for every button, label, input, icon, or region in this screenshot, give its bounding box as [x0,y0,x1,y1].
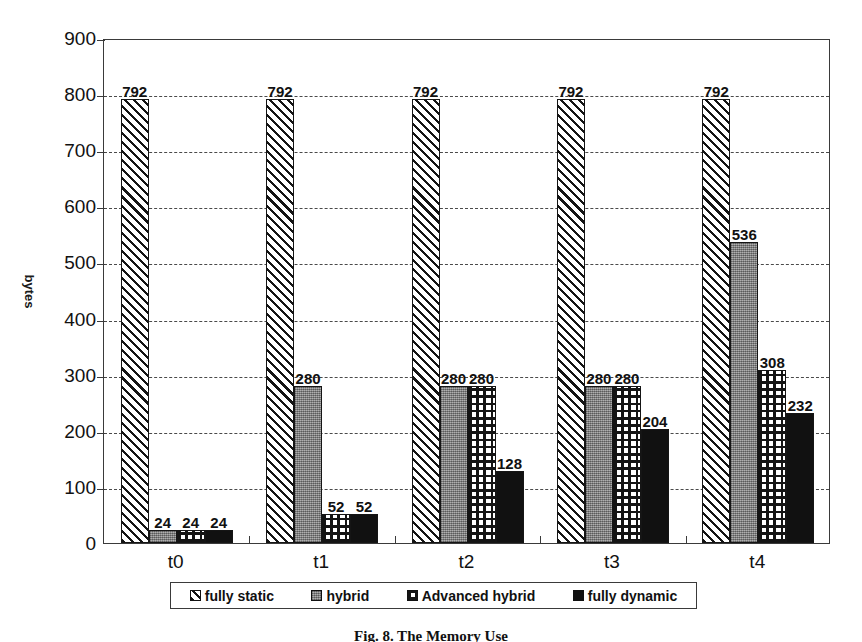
bar-t0-fully-static [121,99,149,543]
bar-value-label: 232 [776,398,824,413]
y-axis-tick-800: 800 [44,85,96,104]
bar-t3-fully-dynamic [641,429,669,543]
bar-t1-advanced-hybrid [322,514,350,543]
y-axis-tick-0: 0 [44,534,96,553]
bar-t3-hybrid [585,386,613,543]
y-axis-tick-400: 400 [44,310,96,329]
bar-t1-fully-static [266,99,294,543]
bar-t2-fully-dynamic [496,471,524,543]
bar-t0-hybrid [149,530,177,543]
bar-t0-fully-dynamic [205,530,233,543]
bar-t4-fully-dynamic [786,413,814,543]
bar-value-label: 128 [486,456,534,471]
bar-value-label: 52 [340,499,388,514]
x-axis-tick-mark [395,536,396,543]
legend-swatch-icon [573,590,584,601]
x-axis-tick-t3: t3 [539,551,684,573]
bar-value-label: 308 [748,355,796,370]
legend-item-advanced-hybrid: Advanced hybrid [407,588,536,604]
bar-value-label: 204 [631,414,679,429]
y-axis-tick-700: 700 [44,141,96,160]
bar-t4-advanced-hybrid [758,370,786,543]
bar-value-label: 792 [402,84,450,99]
y-axis-tick-mark [97,152,105,153]
plot-area: 7922424247922805252792280280128792280280… [103,39,830,544]
bar-value-label: 792 [692,84,740,99]
chart-legend: fully statichybridAdvanced hybridfully d… [170,582,697,609]
figure-caption: Fig. 8. The Memory Use [0,628,862,642]
y-axis-tick-300: 300 [44,366,96,385]
legend-label: Advanced hybrid [422,588,536,604]
legend-item-fully-static: fully static [190,588,274,604]
legend-label: hybrid [326,588,369,604]
x-axis-tick-mark [686,536,687,543]
y-axis-label: bytes [22,257,37,327]
y-axis-tick-500: 500 [44,253,96,272]
bar-value-label: 280 [284,371,332,386]
bar-t3-fully-static [557,99,585,543]
x-axis-tick-t2: t2 [394,551,539,573]
bar-value-label: 536 [720,227,768,242]
x-axis-tick-t0: t0 [103,551,248,573]
y-axis-tick-mark [97,433,105,434]
legend-item-hybrid: hybrid [311,588,369,604]
y-axis-tick-labels: 0100200300400500600700800900 [40,0,96,642]
y-axis-tick-100: 100 [44,478,96,497]
y-axis-tick-200: 200 [44,422,96,441]
y-axis-tick-600: 600 [44,197,96,216]
bar-value-label: 792 [547,84,595,99]
bar-t3-advanced-hybrid [613,386,641,543]
bar-t1-hybrid [294,386,322,543]
y-axis-tick-mark [97,40,105,41]
y-axis-tick-mark [97,377,105,378]
bar-t2-fully-static [412,99,440,543]
y-axis-tick-mark [97,489,105,490]
x-axis-tick-t1: t1 [248,551,393,573]
bar-chart-figure: bytes 0100200300400500600700800900 79224… [0,0,862,642]
bar-t4-fully-static [702,99,730,543]
bar-value-label: 280 [458,371,506,386]
y-axis-tick-mark [97,321,105,322]
legend-swatch-icon [311,590,322,601]
bar-value-label: 792 [256,84,304,99]
y-axis-tick-mark [97,96,105,97]
bar-value-label: 24 [195,515,243,530]
legend-swatch-icon [190,590,201,601]
x-axis-tick-mark [540,536,541,543]
y-axis-tick-900: 900 [44,29,96,48]
bar-t0-advanced-hybrid [177,530,205,543]
legend-label: fully static [205,588,274,604]
legend-label: fully dynamic [588,588,677,604]
x-axis-tick-t4: t4 [685,551,830,573]
bar-t4-hybrid [730,242,758,543]
legend-item-fully-dynamic: fully dynamic [573,588,677,604]
x-axis-tick-mark [249,536,250,543]
y-axis-tick-mark [97,208,105,209]
bar-value-label: 280 [603,371,651,386]
y-axis-tick-mark [97,264,105,265]
bar-t2-hybrid [440,386,468,543]
bar-value-label: 792 [111,84,159,99]
legend-swatch-icon [407,590,418,601]
bar-t1-fully-dynamic [350,514,378,543]
